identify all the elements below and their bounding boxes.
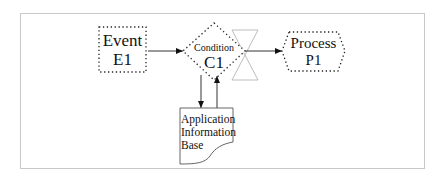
process-node: Process P1	[282, 32, 345, 71]
info-base-line2: Information	[181, 126, 236, 138]
condition-id: C1	[204, 53, 224, 72]
event-id: E1	[113, 50, 132, 69]
process-id: P1	[306, 52, 322, 68]
condition-label: Condition	[194, 42, 234, 53]
info-base-node: Application Information Base	[180, 108, 236, 164]
event-label: Event	[103, 31, 143, 50]
process-label: Process	[291, 35, 337, 51]
event-node: Event E1	[99, 27, 146, 72]
condition-node: Condition C1	[183, 23, 245, 80]
info-base-line1: Application	[181, 113, 236, 126]
info-base-line3: Base	[181, 139, 203, 151]
eca-diagram: Event E1 Condition C1 Process P1 Applica…	[0, 0, 445, 179]
